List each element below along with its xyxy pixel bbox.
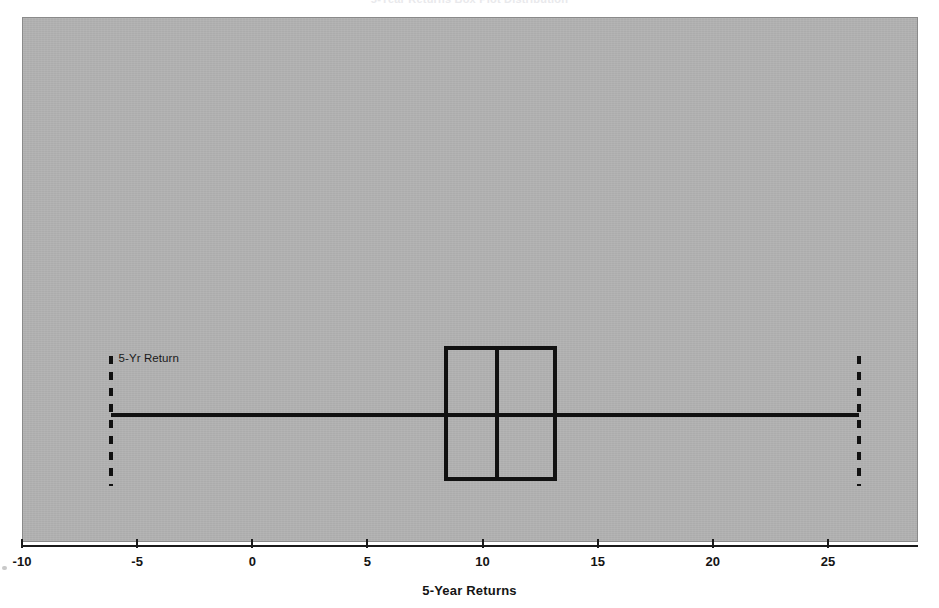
x-tick [597,539,599,548]
x-tick-label: 20 [706,554,720,569]
x-tick [482,539,484,548]
boxplot-series-5yr-return: 5-Yr Return [23,18,917,541]
x-tick-label: 0 [249,554,256,569]
plot-panel: 5-Yr Return [22,17,918,542]
x-tick [712,539,714,548]
x-axis-title: 5-Year Returns [0,583,939,598]
x-tick [136,539,138,548]
x-tick-label: 25 [821,554,835,569]
median-line [495,346,499,481]
whisker-cap-min [109,356,113,486]
x-tick-label: 15 [590,554,604,569]
x-tick [366,539,368,548]
x-tick-label: 5 [364,554,371,569]
whisker-cap-max [857,356,861,486]
scan-artifact [2,566,7,570]
x-tick [21,539,23,548]
x-tick [827,539,829,548]
x-tick-label: 10 [475,554,489,569]
x-tick-label: -5 [131,554,143,569]
x-tick [251,539,253,548]
box-iqr-rect [444,346,557,481]
x-tick-label: -10 [13,554,32,569]
x-axis-line [22,545,918,547]
chart-title: 5-Year Returns Box Plot Distribution [0,0,939,5]
series-label: 5-Yr Return [119,352,180,364]
